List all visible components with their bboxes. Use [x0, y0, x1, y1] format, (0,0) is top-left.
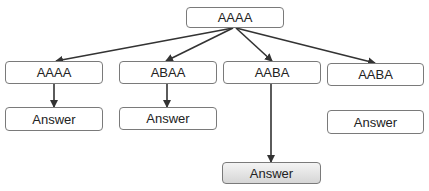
edge-root-to-abaa [166, 28, 233, 61]
level2-node-aaba: AABA [223, 61, 321, 84]
final-answer-node: Answer [222, 162, 321, 184]
level2-node-abaa: ABAA [119, 61, 217, 84]
edge-root-to-aaba-right [236, 28, 375, 63]
edge-root-to-aaaa [56, 28, 233, 61]
edges-layer [0, 0, 429, 191]
root-node: AAAA [186, 7, 284, 28]
answer-node-3: Answer [327, 110, 424, 134]
answer-node-1: Answer [5, 107, 103, 131]
answer-node-2: Answer [119, 107, 217, 130]
level2-node-aaba-right: AABA [327, 63, 424, 86]
level2-node-aaaa: AAAA [5, 61, 103, 84]
